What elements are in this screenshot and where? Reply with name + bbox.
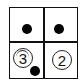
ring-arc-icon <box>16 50 29 64</box>
cell-0-0[interactable] <box>10 8 43 41</box>
dot-icon <box>22 24 32 34</box>
number-label: 2 <box>58 53 66 68</box>
circled-number-2: 2 <box>52 50 72 70</box>
cell-1-0[interactable]: 3 <box>10 43 43 79</box>
cell-1-1[interactable]: 2 <box>45 43 78 79</box>
dot-icon <box>54 24 64 34</box>
cell-0-1[interactable] <box>45 8 78 41</box>
dot-icon <box>30 66 40 76</box>
circled-number-3: 3 <box>13 48 33 68</box>
